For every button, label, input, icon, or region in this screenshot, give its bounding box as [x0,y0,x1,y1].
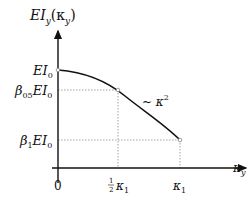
point-beta1 [178,138,182,142]
y-axis-label: EIy(κy) [29,7,76,26]
y-tick-beta1: β1EI0 [19,133,52,150]
x-tick-half-kappa1: 1 2 κ1 [108,177,129,195]
svg-text:2: 2 [109,186,113,194]
diagram-canvas: EIy(κy) EI0 β05EI0 β1EI0 0 1 2 κ1 κ1 κy … [0,0,251,203]
y-tick-ei0: EI0 [32,63,53,80]
x-axis-label: κy [232,161,246,177]
y-tick-beta05: β05EI0 [14,83,52,100]
point-beta05 [116,88,120,92]
x-tick-kappa1: κ1 [172,179,186,195]
svg-text:1: 1 [109,177,113,185]
point-ei0 [56,68,60,72]
svg-text:κ1: κ1 [115,179,129,195]
curve-annotation: ~ κ2 [142,93,169,109]
x-tick-origin: 0 [54,179,62,193]
